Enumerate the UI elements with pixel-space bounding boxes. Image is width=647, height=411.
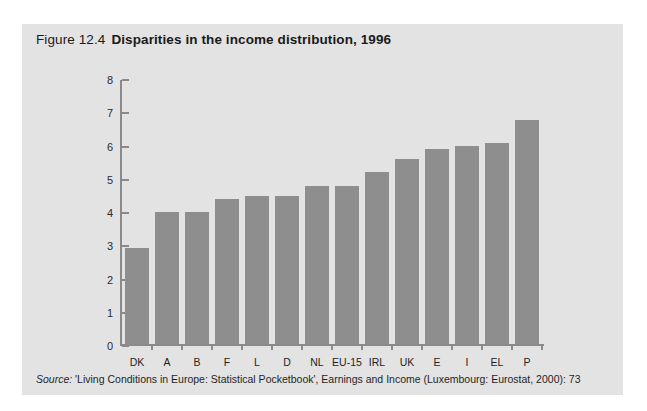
x-tick-mark [211,344,213,350]
x-tick-mark [361,344,363,350]
x-axis-label: EL [482,356,512,368]
bar [485,143,508,344]
x-axis-label: NL [302,356,332,368]
chart-plot-area: 012345678 DKABFLDNLEU-15IRLUKEIELP [120,80,544,346]
bar [185,212,208,344]
y-tick-label: 8 [91,74,113,86]
x-axis-label: EU-15 [332,356,362,368]
y-tick-label: 0 [91,340,113,352]
bar [515,120,538,344]
bar-slot [332,80,362,344]
figure-number: Figure 12.4 [36,32,105,47]
bar [155,212,178,344]
x-axis-label: L [242,356,272,368]
bar-slot [242,80,272,344]
bar [395,159,418,344]
y-tick-label: 3 [91,240,113,252]
bar [275,196,298,345]
y-tick-mark [122,345,129,347]
bar-slot [422,80,452,344]
x-axis-label: E [422,356,452,368]
x-axis-label: DK [122,356,152,368]
bar [215,199,238,344]
figure-title-text: Disparities in the income distribution, … [111,32,391,47]
x-axis-label: I [452,356,482,368]
y-tick-label: 1 [91,307,113,319]
x-axis-label: IRL [362,356,392,368]
x-axis-label: UK [392,356,422,368]
bar [335,186,358,344]
y-tick-label: 4 [91,207,113,219]
figure-panel: Figure 12.4Disparities in the income dis… [22,24,623,395]
x-tick-mark [241,344,243,350]
bar [125,248,148,344]
bar [245,196,268,345]
x-tick-mark [481,344,483,350]
x-axis-label: A [152,356,182,368]
x-tick-mark [541,344,543,350]
bar-slot [452,80,482,344]
bar-slot [152,80,182,344]
x-tick-mark [301,344,303,350]
x-tick-mark [391,344,393,350]
bar-slot [482,80,512,344]
source-label: Source: [36,373,72,385]
x-tick-mark [151,344,153,350]
x-tick-mark [511,344,513,350]
bar-slot [212,80,242,344]
x-axis-label: F [212,356,242,368]
bar [455,146,478,344]
bar-slot [392,80,422,344]
x-tick-mark [181,344,183,350]
y-tick-label: 7 [91,107,113,119]
x-axis-label: P [512,356,542,368]
x-axis-label: D [272,356,302,368]
bar [425,149,448,344]
bar-slot [362,80,392,344]
source-citation: 'Living Conditions in Europe: Statistica… [72,373,580,385]
x-axis-label: B [182,356,212,368]
bar-series [122,80,542,344]
y-tick-label: 5 [91,174,113,186]
bar-slot [272,80,302,344]
source-note: Source: 'Living Conditions in Europe: St… [36,373,580,385]
figure-title: Figure 12.4Disparities in the income dis… [36,32,391,47]
y-tick-label: 2 [91,274,113,286]
x-axis-labels: DKABFLDNLEU-15IRLUKEIELP [122,356,542,368]
x-tick-mark [331,344,333,350]
bar-slot [302,80,332,344]
bar-slot [182,80,212,344]
bar [305,186,328,344]
x-tick-mark [421,344,423,350]
x-tick-mark [271,344,273,350]
bar [365,172,388,344]
x-tick-mark [451,344,453,350]
y-tick-label: 6 [91,141,113,153]
bar-slot [512,80,542,344]
bar-slot [122,80,152,344]
